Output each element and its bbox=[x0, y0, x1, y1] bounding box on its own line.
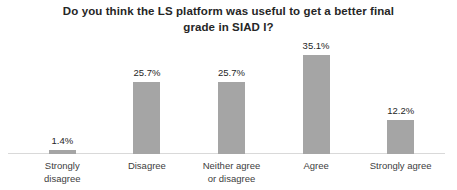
data-label: 25.7% bbox=[218, 67, 245, 79]
category-axis-labels: Strongly disagreeDisagreeNeither agree o… bbox=[20, 159, 443, 185]
bar bbox=[387, 120, 414, 154]
category-label-text: Disagree bbox=[128, 159, 166, 172]
bar bbox=[218, 82, 245, 154]
plot-area: 1.4%25.7%25.7%35.1%12.2% bbox=[20, 40, 443, 154]
category-label-text: Agree bbox=[303, 159, 328, 172]
category-label: Strongly agree bbox=[358, 159, 443, 172]
data-label: 25.7% bbox=[133, 67, 160, 79]
category-label: Strongly disagree bbox=[20, 159, 105, 185]
category-label-text: Strongly disagree bbox=[28, 159, 96, 185]
category-label-text: Strongly agree bbox=[370, 159, 432, 172]
bar-chart: Do you think the LS platform was useful … bbox=[0, 0, 457, 190]
chart-title: Do you think the LS platform was useful … bbox=[51, 3, 407, 35]
category-label-text: Neither agree or disagree bbox=[197, 159, 265, 185]
category-label: Disagree bbox=[105, 159, 190, 172]
bar-column: 35.1% bbox=[274, 40, 359, 154]
data-label: 35.1% bbox=[303, 40, 330, 52]
bar-column: 12.2% bbox=[358, 105, 443, 154]
bar bbox=[49, 150, 76, 154]
bar bbox=[303, 55, 330, 154]
bar-column: 25.7% bbox=[189, 67, 274, 154]
bar-column: 25.7% bbox=[105, 67, 190, 154]
category-label: Neither agree or disagree bbox=[189, 159, 274, 185]
data-label: 12.2% bbox=[387, 105, 414, 117]
data-label: 1.4% bbox=[51, 135, 73, 147]
bar bbox=[133, 82, 160, 154]
category-label: Agree bbox=[274, 159, 359, 172]
bar-column: 1.4% bbox=[20, 135, 105, 154]
